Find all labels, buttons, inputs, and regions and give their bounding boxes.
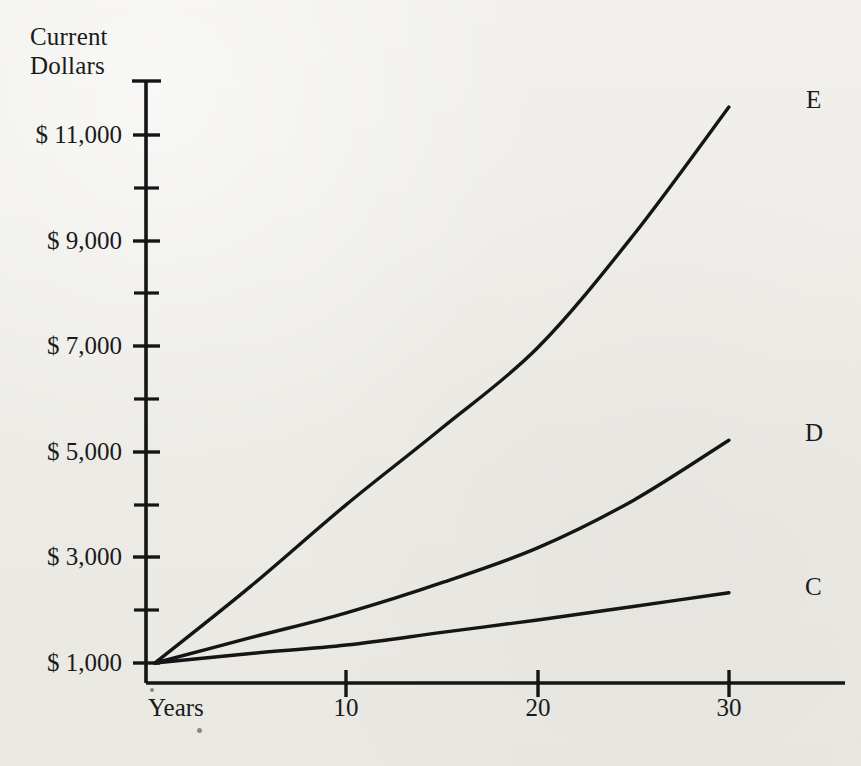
scan-speck bbox=[197, 728, 202, 733]
axis-lines bbox=[146, 80, 845, 683]
series-curve-d bbox=[155, 440, 729, 663]
data-curves bbox=[155, 107, 729, 663]
series-curve-e bbox=[155, 107, 729, 663]
scan-speck bbox=[150, 688, 154, 692]
series-curve-c bbox=[155, 593, 729, 663]
chart-svg bbox=[0, 0, 861, 766]
chart-figure: Current Dollars Years $ 11,000 $ 9,000 $… bbox=[0, 0, 861, 766]
